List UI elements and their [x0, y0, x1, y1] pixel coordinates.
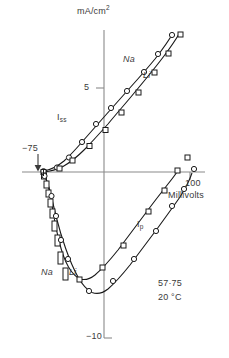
- curve-ip-na: [44, 172, 178, 280]
- holding-potential-label: −75: [22, 143, 38, 153]
- markers-iss-li: [41, 32, 183, 175]
- curve-label-ip: Ip: [137, 219, 144, 229]
- markers-iss-na: [41, 32, 175, 173]
- markers-ip-na: [42, 155, 191, 282]
- series-label-li-lower: Li: [69, 267, 76, 277]
- curve-iss-na: [44, 33, 174, 171]
- holding-potential-arrow-icon: [35, 154, 42, 172]
- y-tick-label-minus-10: −10: [86, 331, 102, 341]
- y-axis-label-exponent: 2: [106, 4, 110, 11]
- series-label-li-upper: Li: [143, 70, 150, 80]
- curve-label-ip-sub: p: [140, 223, 144, 230]
- x-tick-label-100: 100: [185, 178, 201, 188]
- series-label-na-upper: Na: [123, 54, 135, 64]
- curve-label-iss: Iss: [57, 112, 67, 122]
- y-axis-label: mA/cm2: [77, 6, 110, 16]
- annotation-preparation-id: 57·75: [158, 278, 182, 288]
- y-axis-label-text: mA/cm: [77, 6, 106, 16]
- series-label-na-lower: Na: [41, 267, 53, 277]
- curve-label-iss-sub: ss: [60, 116, 67, 123]
- y-tick-label-5: 5: [84, 82, 89, 92]
- x-axis-label: Millivolts: [168, 190, 204, 200]
- annotation-temperature: 20 °C: [158, 292, 182, 302]
